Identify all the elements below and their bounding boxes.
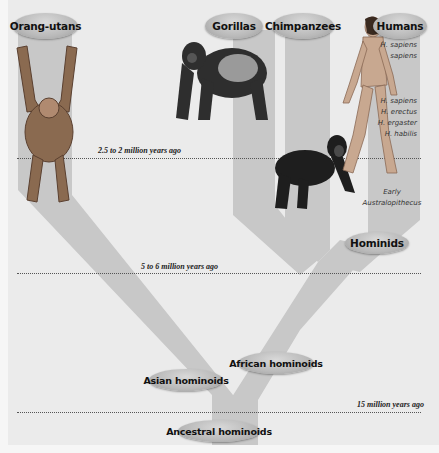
species-early-homo: H. sapiens H. erectus H. ergaster H. hab… [372, 96, 417, 140]
orangutan-illustration [5, 40, 95, 210]
time-label-15-million: 15 million years ago [357, 400, 424, 409]
node-ancestral-hominoids: Ancestral hominoids [178, 420, 260, 442]
node-african-hominoids: African hominoids [238, 352, 314, 374]
species-h-sapiens-sapiens: H. sapiens sapiens [372, 40, 417, 62]
species-australopithecus: Early Australopithecus [360, 187, 424, 209]
phylogenetic-tree-diagram: 2.5 to 2 million years ago 5 to 6 millio… [0, 0, 439, 453]
label-chimpanzees: Chimpanzees [272, 13, 334, 39]
time-line-5-million [17, 273, 421, 274]
time-label-2-million: 2.5 to 2 million years ago [98, 146, 181, 155]
label-gorillas: Gorillas [205, 13, 263, 39]
node-asian-hominoids: Asian hominoids [149, 369, 223, 391]
branch-african-hominoids [230, 262, 360, 400]
node-hominids: Hominids [345, 232, 409, 254]
time-label-5-million: 5 to 6 million years ago [141, 262, 218, 271]
time-line-15-million [17, 412, 421, 413]
label-orangutans: Orang-utans [13, 13, 78, 39]
gorilla-illustration [172, 28, 272, 128]
label-humans: Humans [373, 13, 427, 39]
